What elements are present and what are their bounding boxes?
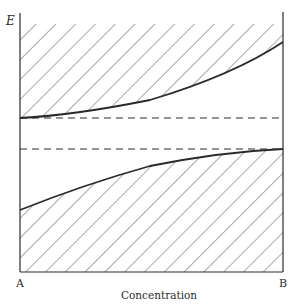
y-axis-label: E: [6, 14, 15, 28]
x-axis-label: Concentration: [121, 289, 197, 301]
lower-hatched-region: [20, 145, 283, 272]
left-end-label: A: [16, 277, 24, 290]
right-end-label: B: [279, 277, 287, 290]
upper-hatched-region: [20, 20, 283, 120]
band-diagram: [0, 0, 296, 306]
